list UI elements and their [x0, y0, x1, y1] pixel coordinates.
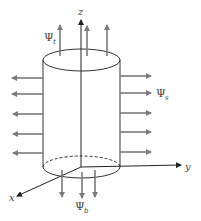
bottom-flux-arrows: [62, 170, 95, 198]
psi-side-subscript: s: [165, 94, 169, 102]
y-axis-label: y: [184, 161, 191, 172]
psi-side-label: Ψ s: [156, 87, 169, 102]
psi-bottom-label: Ψ b: [75, 200, 89, 215]
psi-bottom-subscript: b: [84, 207, 89, 215]
left-flux-arrows: [12, 78, 43, 153]
top-flux-arrows: [60, 25, 107, 56]
y-axis: [81, 165, 181, 167]
psi-top-label: Ψ t: [44, 31, 56, 46]
right-flux-arrows: [120, 76, 151, 152]
cylinder-flux-diagram: z y x Ψ t Ψ s Ψ b: [0, 0, 201, 221]
psi-top-subscript: t: [53, 38, 56, 46]
z-axis-label: z: [77, 6, 84, 17]
coordinate-axes: [17, 20, 181, 196]
x-axis: [17, 167, 81, 196]
x-axis-label: x: [9, 192, 15, 203]
